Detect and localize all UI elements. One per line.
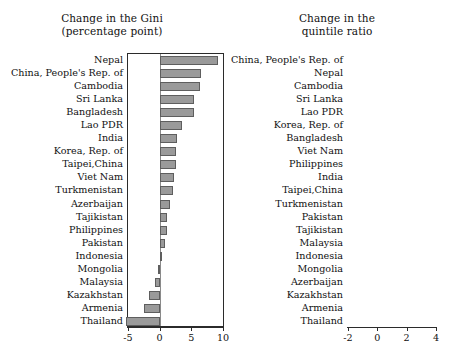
x-tick — [160, 327, 161, 331]
bar — [160, 213, 168, 222]
figure-two-panel-bar-charts: Change in the Gini (percentage point) Ne… — [0, 0, 450, 364]
x-axis-line-gini — [127, 327, 224, 328]
category-label: Cambodia — [0, 79, 123, 92]
bar — [160, 95, 194, 104]
panel-title-quintile-ratio: Change in the quintile ratio — [225, 12, 449, 38]
category-label: Armenia — [225, 301, 343, 314]
category-label: India — [225, 170, 343, 183]
bar — [160, 226, 167, 235]
bar-row — [128, 132, 223, 145]
bar — [160, 186, 173, 195]
category-label: Bangladesh — [225, 131, 343, 144]
bar — [160, 252, 162, 261]
x-tick-label: 0 — [374, 332, 380, 343]
category-label: Mongolia — [0, 262, 123, 275]
category-label: Sri Lanka — [225, 92, 343, 105]
category-label: Indonesia — [225, 249, 343, 262]
panel-change-in-quintile-ratio: Change in the quintile ratio China, Peop… — [225, 0, 450, 364]
x-tick — [128, 327, 129, 331]
bar — [149, 291, 160, 300]
bar — [160, 239, 165, 248]
bar — [160, 121, 183, 130]
category-label: Azerbaijan — [0, 197, 123, 210]
x-tick-label: 4 — [433, 332, 439, 343]
bar — [160, 200, 170, 209]
bar-row — [128, 171, 223, 184]
category-label: Lao PDR — [225, 105, 343, 118]
bar-row — [128, 54, 223, 67]
bar — [160, 160, 176, 169]
bar — [160, 173, 174, 182]
panel-title-gini: Change in the Gini (percentage point) — [0, 12, 224, 38]
bar — [160, 108, 194, 117]
bar — [160, 82, 200, 91]
category-label: Malaysia — [0, 275, 123, 288]
category-label: China, People's Rep. of — [0, 66, 123, 79]
category-label: Malaysia — [225, 236, 343, 249]
category-label: Philippines — [0, 223, 123, 236]
category-labels-quintile-ratio: China, People's Rep. ofNepalCambodiaSri … — [225, 53, 343, 327]
category-label: Nepal — [0, 53, 123, 66]
x-tick-label: 5 — [188, 332, 194, 343]
x-tick — [348, 327, 349, 331]
category-label: Korea, Rep. of — [225, 118, 343, 131]
bar-row — [128, 158, 223, 171]
bar-row — [128, 198, 223, 211]
bar-row — [128, 80, 223, 93]
x-tick — [191, 327, 192, 331]
category-label: Sri Lanka — [0, 92, 123, 105]
category-label: Pakistan — [225, 210, 343, 223]
x-tick — [407, 327, 408, 331]
category-label: Kazakhstan — [0, 288, 123, 301]
bar-row — [128, 276, 223, 289]
bar-row — [128, 211, 223, 224]
bar-row — [128, 67, 223, 80]
category-label: Pakistan — [0, 236, 123, 249]
category-label: Bangladesh — [0, 105, 123, 118]
bar-row — [128, 250, 223, 263]
category-label: Korea, Rep. of — [0, 144, 123, 157]
plot-area-gini — [127, 53, 224, 327]
panel-change-in-gini: Change in the Gini (percentage point) Ne… — [0, 0, 225, 364]
plot-wrap-quintile-ratio — [347, 53, 437, 327]
category-label: Thailand — [225, 314, 343, 327]
category-label: Tajikistan — [225, 223, 343, 236]
bar-row — [128, 224, 223, 237]
category-label: Azerbaijan — [225, 275, 343, 288]
bar — [144, 304, 159, 313]
category-label: Lao PDR — [0, 118, 123, 131]
x-tick-label: 2 — [404, 332, 410, 343]
x-tick-label: 0 — [157, 332, 163, 343]
bar-row — [128, 106, 223, 119]
bar-row — [128, 184, 223, 197]
category-label: Indonesia — [0, 249, 123, 262]
bar-row — [128, 289, 223, 302]
x-axis-gini: -50510 — [127, 327, 224, 349]
category-label: Thailand — [0, 314, 123, 327]
bar — [160, 69, 201, 78]
category-label: Philippines — [225, 157, 343, 170]
bars-gini — [128, 54, 223, 326]
category-label: Tajikistan — [0, 210, 123, 223]
x-axis-quintile-ratio: -2024 — [347, 327, 437, 349]
bar — [160, 147, 176, 156]
category-label: Turkmenistan — [0, 183, 123, 196]
x-tick — [436, 327, 437, 331]
x-axis-line-quintile-ratio — [347, 327, 437, 328]
category-label: Viet Nam — [225, 144, 343, 157]
category-labels-gini: NepalChina, People's Rep. ofCambodiaSri … — [0, 53, 123, 327]
bar — [160, 56, 218, 65]
x-tick — [377, 327, 378, 331]
x-tick — [223, 327, 224, 331]
bar — [126, 317, 160, 326]
category-label: Viet Nam — [0, 170, 123, 183]
category-label: Cambodia — [225, 79, 343, 92]
bar — [158, 265, 160, 274]
category-label: Kazakhstan — [225, 288, 343, 301]
category-label: India — [0, 131, 123, 144]
bar-row — [128, 263, 223, 276]
x-tick-label: -2 — [343, 332, 352, 343]
bar-row — [128, 93, 223, 106]
bar — [155, 278, 160, 287]
category-label: Nepal — [225, 66, 343, 79]
